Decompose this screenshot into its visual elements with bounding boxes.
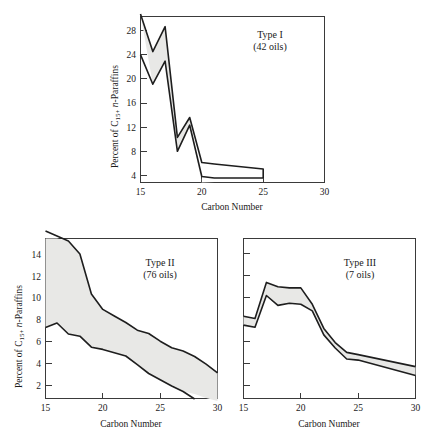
chart-panel-type-3: 15 20 25 30 Type III (7 oils) Carbon Num… <box>230 228 441 446</box>
x-tick-label: 25 <box>258 187 268 197</box>
y-axis-tick-labels-type-1: 4 8 12 16 20 24 28 <box>127 26 137 181</box>
panel-title-type-1: Type I <box>257 29 283 40</box>
chart-panel-type-2: 2 4 6 8 10 12 14 15 20 25 30 <box>0 228 230 446</box>
x-tick-label: 30 <box>320 187 330 197</box>
figure-root: 4 8 12 16 20 24 28 15 20 25 30 <box>0 0 441 446</box>
y-axis-title-type-1: Percent of C15+ n-Paraffins <box>110 65 122 168</box>
x-tick-label: 20 <box>296 403 306 413</box>
plot-frame-type-3 <box>244 239 416 399</box>
x-axis-title-type-3: Carbon Number <box>298 419 360 429</box>
chart-panel-type-1: 4 8 12 16 20 24 28 15 20 25 30 <box>100 8 340 213</box>
envelope-upper-type-1 <box>141 14 264 178</box>
x-axis-ticks-type-3 <box>244 393 416 399</box>
y-tick-label: 12 <box>32 272 42 282</box>
x-axis-title-type-2: Carbon Number <box>100 419 162 429</box>
y-axis-tick-labels-type-2: 2 4 6 8 10 12 14 <box>32 250 42 391</box>
y-tick-label: 28 <box>127 26 137 36</box>
x-tick-label: 15 <box>239 403 249 413</box>
chart-svg-type-2: 2 4 6 8 10 12 14 15 20 25 30 <box>0 228 230 446</box>
y-axis-ticks-type-1 <box>141 30 147 175</box>
chart-svg-type-3: 15 20 25 30 Type III (7 oils) Carbon Num… <box>230 228 441 446</box>
panel-title-type-2: Type II <box>145 257 174 268</box>
panel-subtitle-type-3: (7 oils) <box>346 269 375 281</box>
y-tick-label: 10 <box>32 293 42 303</box>
y-tick-label: 8 <box>131 147 136 157</box>
plot-frame-type-1 <box>141 17 325 183</box>
y-tick-label: 2 <box>36 381 41 391</box>
x-tick-label: 15 <box>41 403 51 413</box>
y-tick-label: 20 <box>127 74 137 84</box>
envelope-band-fill-type-2 <box>46 239 218 402</box>
y-tick-label: 4 <box>36 359 41 369</box>
x-tick-label: 15 <box>136 187 146 197</box>
x-tick-label: 20 <box>98 403 108 413</box>
x-axis-tick-labels-type-3: 15 20 25 30 <box>239 403 421 413</box>
y-axis-title-type-2: Percent of C15+ n-Paraffins <box>14 285 26 388</box>
y-tick-label: 8 <box>36 315 41 325</box>
y-tick-label: 6 <box>36 337 41 347</box>
chart-svg-type-1: 4 8 12 16 20 24 28 15 20 25 30 <box>100 8 340 213</box>
y-tick-label: 14 <box>32 250 42 260</box>
x-tick-label: 25 <box>353 403 363 413</box>
x-axis-title-type-1: Carbon Number <box>201 202 263 212</box>
x-axis-tick-labels-type-1: 15 20 25 30 <box>136 187 330 197</box>
y-tick-label: 24 <box>127 50 137 60</box>
x-tick-label: 30 <box>213 403 223 413</box>
panel-subtitle-type-1: (42 oils) <box>253 41 287 53</box>
y-tick-label: 12 <box>127 123 137 133</box>
envelope-lower-type-1 <box>141 55 264 178</box>
x-tick-label: 30 <box>411 403 421 413</box>
panel-title-type-3: Type III <box>344 257 376 268</box>
x-tick-label: 25 <box>155 403 165 413</box>
x-axis-tick-labels-type-2: 15 20 25 30 <box>41 403 223 413</box>
y-tick-label: 16 <box>127 98 137 108</box>
y-tick-label: 4 <box>131 171 136 181</box>
panel-subtitle-type-2: (76 oils) <box>143 269 177 281</box>
x-tick-label: 20 <box>197 187 207 197</box>
